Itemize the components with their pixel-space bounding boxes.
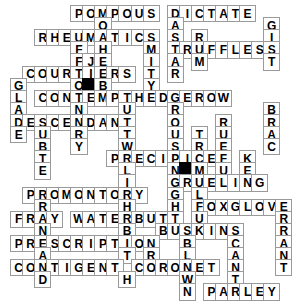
letter-cell[interactable]: W — [215, 90, 232, 107]
crossword-grid[interactable]: POMPOUSDICTATEOAGRHEUMATICSSRIFHMTRUFFLE… — [0, 0, 303, 307]
letter-cell[interactable]: G — [251, 174, 268, 191]
letter-cell[interactable]: E — [34, 162, 51, 179]
letter-cell[interactable]: M — [191, 53, 208, 70]
letter-cell[interactable]: R — [167, 66, 184, 83]
letter-cell[interactable]: S — [118, 66, 135, 83]
letter-cell[interactable]: H — [118, 271, 135, 288]
letter-cell[interactable]: T — [275, 259, 292, 276]
letter-cell[interactable]: E — [239, 5, 256, 22]
letter-cell[interactable]: C — [263, 138, 280, 155]
letter-cell[interactable]: T — [203, 259, 220, 276]
letter-cell[interactable]: E — [10, 126, 27, 143]
letter-cell[interactable]: N — [179, 283, 196, 300]
letter-cell[interactable]: S — [143, 5, 160, 22]
letter-cell[interactable]: Y — [263, 283, 280, 300]
letter-cell[interactable]: D — [34, 271, 51, 288]
letter-cell[interactable]: T — [263, 53, 280, 70]
letter-cell[interactable]: Y — [70, 138, 87, 155]
